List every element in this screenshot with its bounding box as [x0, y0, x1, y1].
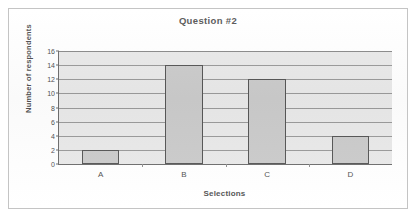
x-tick-label-a: A [98, 170, 103, 179]
gridline [59, 65, 392, 66]
y-tick-mark [56, 135, 59, 136]
gridline [59, 79, 392, 80]
gridline [59, 108, 392, 109]
y-tick-label: 6 [51, 118, 55, 125]
y-tick-mark [56, 51, 59, 52]
plot-area: 0246810121416 ABCD [58, 51, 392, 165]
y-tick-label: 16 [47, 48, 55, 55]
bar-b [165, 65, 202, 164]
bar-c [248, 79, 285, 164]
gridline [59, 51, 392, 52]
y-tick-label: 4 [51, 132, 55, 139]
x-tick-label-c: C [264, 170, 270, 179]
y-tick-label: 8 [51, 104, 55, 111]
y-axis-title: Number of respondents [24, 14, 33, 124]
x-axis-title: Selections [58, 189, 391, 198]
y-tick-mark [56, 79, 59, 80]
y-tick-label: 14 [47, 62, 55, 69]
chart-title: Question #2 [9, 15, 407, 26]
y-tick-mark [56, 93, 59, 94]
y-tick-label: 10 [47, 90, 55, 97]
bar-d [332, 136, 369, 164]
y-tick-mark [56, 164, 59, 165]
y-tick-mark [56, 149, 59, 150]
x-category-separator [226, 164, 227, 167]
y-tick-label: 12 [47, 76, 55, 83]
x-tick-label-b: B [181, 170, 186, 179]
gridline [59, 122, 392, 123]
y-tick-label: 2 [51, 146, 55, 153]
chart-frame: Question #2 Number of respondents 024681… [8, 8, 408, 209]
x-category-separator [142, 164, 143, 167]
y-tick-label: 0 [51, 161, 55, 168]
y-tick-mark [56, 107, 59, 108]
bar-a [82, 150, 119, 164]
x-category-separator [309, 164, 310, 167]
x-tick-label-d: D [347, 170, 353, 179]
y-tick-mark [56, 65, 59, 66]
gridline [59, 93, 392, 94]
y-tick-mark [56, 121, 59, 122]
